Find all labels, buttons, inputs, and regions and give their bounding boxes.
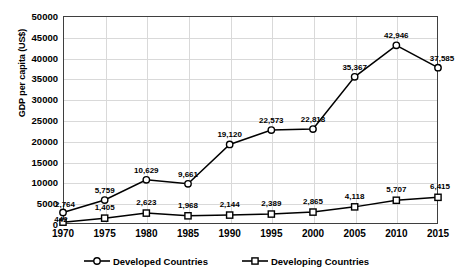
gridline-horizontal	[64, 204, 437, 205]
data-label: 10,629	[134, 165, 158, 174]
y-tick-label: 30000	[0, 94, 58, 105]
y-tick-label: 15000	[0, 156, 58, 167]
y-tick-label: 50000	[0, 11, 58, 22]
x-tick-label: 1995	[248, 228, 294, 239]
data-label: 2,865	[303, 197, 323, 206]
gridline-horizontal	[64, 121, 437, 122]
gridline-horizontal	[64, 163, 437, 164]
data-label: 6,415	[430, 182, 450, 191]
data-label: 442	[54, 215, 67, 224]
gridline-vertical	[231, 17, 232, 223]
y-tick-label: 45000	[0, 31, 58, 42]
square-marker-icon	[242, 255, 268, 267]
x-tick-label: 1985	[165, 228, 211, 239]
y-tick-label: 10000	[0, 177, 58, 188]
y-tick-label: 35000	[0, 73, 58, 84]
x-tick-label: 1975	[82, 228, 128, 239]
x-tick-label: 2005	[332, 228, 378, 239]
gridline-horizontal	[64, 183, 437, 184]
y-tick-label: 40000	[0, 52, 58, 63]
gridline-horizontal	[64, 79, 437, 80]
legend-item-developing[interactable]: Developing Countries	[242, 255, 369, 267]
chart-legend: Developed CountriesDeveloping Countries	[0, 255, 453, 267]
data-label: 22,573	[259, 116, 283, 125]
data-label: 37,585	[430, 53, 454, 62]
data-label: 2,623	[136, 198, 156, 207]
data-label: 19,120	[217, 130, 241, 139]
circle-marker-icon	[84, 255, 110, 267]
gridline-horizontal	[64, 59, 437, 60]
x-tick-label: 1990	[207, 228, 253, 239]
gridline-vertical	[147, 17, 148, 223]
x-tick-label: 1980	[123, 228, 169, 239]
plot-area	[63, 16, 438, 224]
y-tick-label: 25000	[0, 115, 58, 126]
data-label: 1,405	[95, 203, 115, 212]
data-label: 5,707	[386, 185, 406, 194]
data-label: 1,968	[178, 200, 198, 209]
legend-label: Developed Countries	[113, 256, 208, 267]
data-label: 35,367	[342, 62, 366, 71]
data-label: 5,759	[95, 186, 115, 195]
data-label: 4,118	[345, 191, 365, 200]
x-tick-label: 2000	[290, 228, 336, 239]
data-label: 2,389	[261, 199, 281, 208]
data-label: 42,946	[384, 31, 408, 40]
x-tick-label: 2015	[415, 228, 459, 239]
gridline-horizontal	[64, 142, 437, 143]
x-tick-label: 1970	[40, 228, 86, 239]
gridline-vertical	[189, 17, 190, 223]
x-tick-label: 2010	[373, 228, 419, 239]
y-tick-label: 5000	[0, 198, 58, 209]
gridline-horizontal	[64, 100, 437, 101]
data-label: 2,144	[220, 200, 240, 209]
legend-label: Developing Countries	[271, 256, 369, 267]
data-label: 22,818	[301, 115, 325, 124]
gridline-horizontal	[64, 38, 437, 39]
legend-item-developed[interactable]: Developed Countries	[84, 255, 208, 267]
data-label: 2,764	[55, 199, 75, 208]
y-tick-label: 20000	[0, 135, 58, 146]
data-label: 9,661	[178, 169, 198, 178]
